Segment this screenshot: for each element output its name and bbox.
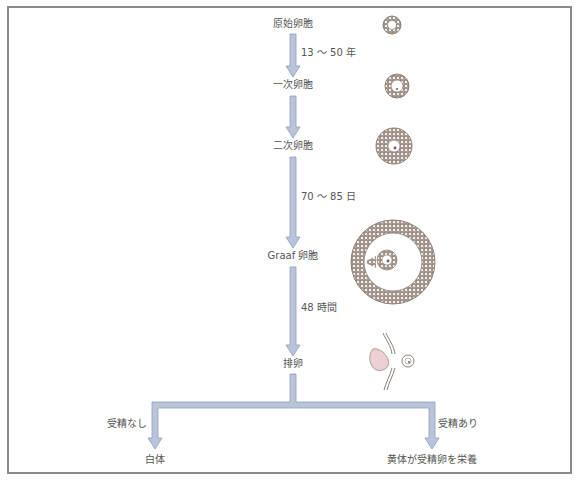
primary-follicle-icon (385, 74, 409, 98)
branch-left-condition: 受精なし (107, 418, 147, 430)
stage-primary-label: 一次卵胞 (273, 79, 313, 91)
primordial-follicle-icon (383, 16, 401, 34)
duration-primordial-to-primary: 13 ～ 50 年 (301, 47, 356, 59)
duration-secondary-to-graafian: 70 ～ 85 日 (301, 191, 356, 203)
stage-ovulation-label: 排卵 (283, 358, 303, 370)
stage-secondary-label: 二次卵胞 (273, 140, 313, 152)
follicle-illustrations (0, 0, 577, 483)
branch-right-condition: 受精あり (438, 418, 478, 430)
branch-left-result: 白体 (145, 454, 165, 466)
stage-graafian-label: Graaf 卵胞 (268, 250, 319, 262)
stage-primordial-label: 原始卵胞 (273, 18, 313, 30)
duration-graafian-to-ovulation: 48 時間 (301, 302, 337, 314)
branch-right-result: 黄体が受精卵を栄養 (387, 454, 477, 466)
secondary-follicle-icon (376, 128, 412, 164)
ovulation-icon (370, 333, 414, 390)
graafian-follicle-icon (351, 220, 435, 304)
